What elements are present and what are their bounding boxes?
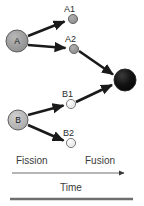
node-a2[interactable] bbox=[69, 44, 78, 53]
node-b[interactable]: B bbox=[8, 110, 28, 130]
node-captions: A1 A2 B1 B2 bbox=[62, 4, 76, 138]
node-b-label: B bbox=[15, 115, 21, 125]
node-caption-a2: A2 bbox=[65, 34, 76, 44]
diagram-canvas: A B A1 A2 B1 B2 Fission bbox=[0, 0, 144, 206]
node-caption-b1: B1 bbox=[62, 89, 73, 99]
fusion-arrows bbox=[76, 51, 113, 102]
node-a-label: A bbox=[14, 36, 20, 46]
node-a[interactable]: A bbox=[6, 30, 28, 52]
node-caption-b2: B2 bbox=[63, 128, 74, 138]
node-b2[interactable] bbox=[66, 138, 75, 147]
arrow-b1-to-product bbox=[76, 85, 112, 102]
node-fusion-product[interactable] bbox=[114, 69, 136, 91]
arrow-a-to-a1 bbox=[28, 22, 65, 37]
node-b1[interactable] bbox=[66, 99, 75, 108]
fission-label: Fission bbox=[16, 155, 48, 166]
fission-arrows-a bbox=[28, 22, 66, 49]
time-axis-label: Time bbox=[60, 182, 82, 193]
phase-labels: Fission Fusion bbox=[16, 155, 115, 166]
fission-arrows-b bbox=[28, 106, 64, 141]
arrow-b-to-b2 bbox=[28, 125, 64, 141]
fusion-label: Fusion bbox=[85, 155, 115, 166]
node-caption-a1: A1 bbox=[64, 4, 75, 14]
fission-fusion-diagram: A B A1 A2 B1 B2 Fission bbox=[0, 0, 144, 206]
arrow-b-to-b1 bbox=[28, 106, 64, 116]
arrow-a-to-a2 bbox=[28, 45, 66, 48]
arrow-a2-to-product bbox=[79, 51, 113, 75]
time-axis: Time bbox=[12, 173, 124, 193]
node-a1[interactable] bbox=[68, 14, 77, 23]
